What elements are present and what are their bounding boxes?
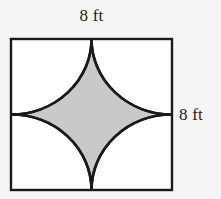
geometry-diagram-svg: [0, 0, 221, 199]
right-dimension-label: 8 ft: [179, 105, 203, 125]
geometry-figure: 8 ft 8 ft: [0, 0, 221, 199]
top-dimension-label: 8 ft: [0, 6, 183, 26]
